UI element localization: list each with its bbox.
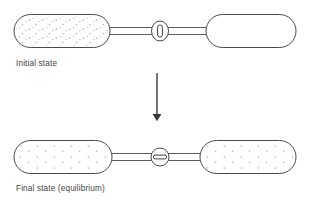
final-left-vessel xyxy=(14,141,112,174)
initial-left-vessel xyxy=(14,15,110,48)
valve-closed-bar-icon xyxy=(158,25,163,37)
final-right-vessel xyxy=(200,141,296,174)
panel-final-state xyxy=(14,141,296,174)
gas-particles-sparse xyxy=(16,142,111,172)
caption-initial-state: Initial state xyxy=(16,60,57,68)
tube-left-initial xyxy=(104,28,152,35)
caption-final-state: Final state (equilibrium) xyxy=(16,185,105,193)
valve-closed[interactable] xyxy=(152,21,169,41)
valve-open[interactable] xyxy=(151,148,169,166)
tube-left-final xyxy=(110,154,152,161)
figure-canvas: Initial state Final state (equilibrium) xyxy=(0,0,310,210)
panel-initial-state xyxy=(14,15,296,48)
initial-right-vessel xyxy=(206,15,296,48)
valve-open-bar-icon xyxy=(153,155,166,159)
tube-right-initial xyxy=(168,28,212,35)
expansion-diagram xyxy=(0,0,310,210)
gas-particles-dense xyxy=(16,16,109,46)
gas-particles-sparse xyxy=(202,142,295,172)
